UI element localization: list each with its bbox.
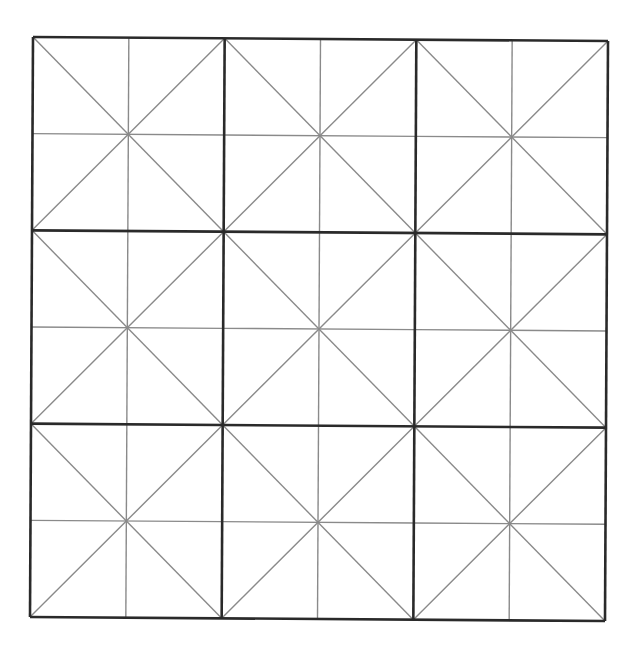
grid-major-vertical — [222, 38, 225, 618]
practice-grid — [30, 37, 608, 621]
minor-lines — [30, 37, 608, 621]
grid-major-vertical — [413, 40, 416, 620]
grid-diagram — [0, 0, 639, 653]
grid-major-vertical — [30, 37, 33, 617]
grid-major-vertical — [605, 41, 608, 621]
